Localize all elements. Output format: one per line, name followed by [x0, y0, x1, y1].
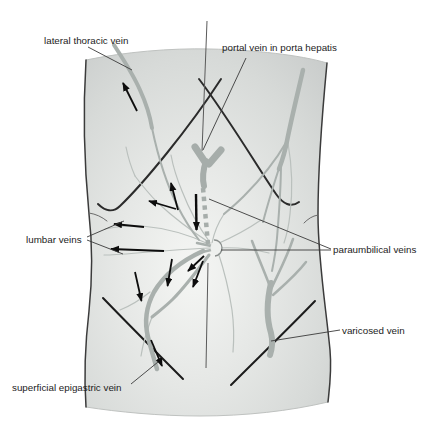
label-paraumbilical-veins: paraumbilical veins	[333, 244, 416, 255]
torso-illustration	[84, 21, 330, 416]
abdominal-veins-diagram: lateral thoracic vein portal vein in por…	[0, 0, 434, 425]
label-portal-vein: portal vein in porta hepatis	[222, 42, 337, 53]
flow-arrow	[196, 194, 197, 230]
label-superficial-epigastric-vein: superficial epigastric vein	[12, 382, 121, 393]
diagram-page: lateral thoracic vein portal vein in por…	[0, 0, 434, 425]
label-varicosed-vein: varicosed vein	[342, 325, 405, 336]
label-lumbar-veins: lumbar veins	[26, 234, 82, 245]
label-lateral-thoracic-vein: lateral thoracic vein	[44, 35, 128, 46]
